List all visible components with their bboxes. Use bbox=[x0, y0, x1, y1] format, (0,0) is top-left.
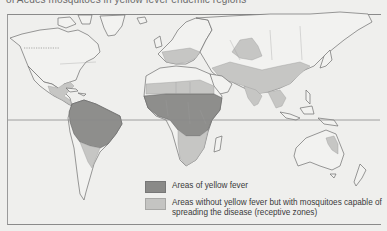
receptive-swatch bbox=[145, 198, 166, 210]
arctic-islands bbox=[58, 15, 92, 28]
iceland bbox=[137, 17, 147, 24]
greenland bbox=[100, 15, 125, 36]
legend-item-endemic: Areas of yellow fever bbox=[145, 181, 387, 193]
endemic-swatch bbox=[145, 181, 166, 193]
indonesia bbox=[280, 106, 338, 126]
receptive-se-asia bbox=[268, 90, 286, 108]
legend-label-endemic: Areas of yellow fever bbox=[172, 181, 248, 191]
legend-label-receptive: Areas without yellow fever but with mosq… bbox=[172, 198, 387, 218]
map-legend: Areas of yellow fever Areas without yell… bbox=[145, 181, 387, 223]
caribbean bbox=[66, 88, 86, 96]
uk bbox=[154, 36, 162, 48]
north-america bbox=[10, 28, 100, 92]
madagascar bbox=[214, 136, 222, 152]
tasmania bbox=[330, 174, 336, 178]
legend-item-receptive: Areas without yellow fever but with mosq… bbox=[145, 198, 387, 218]
philippines bbox=[306, 90, 310, 104]
